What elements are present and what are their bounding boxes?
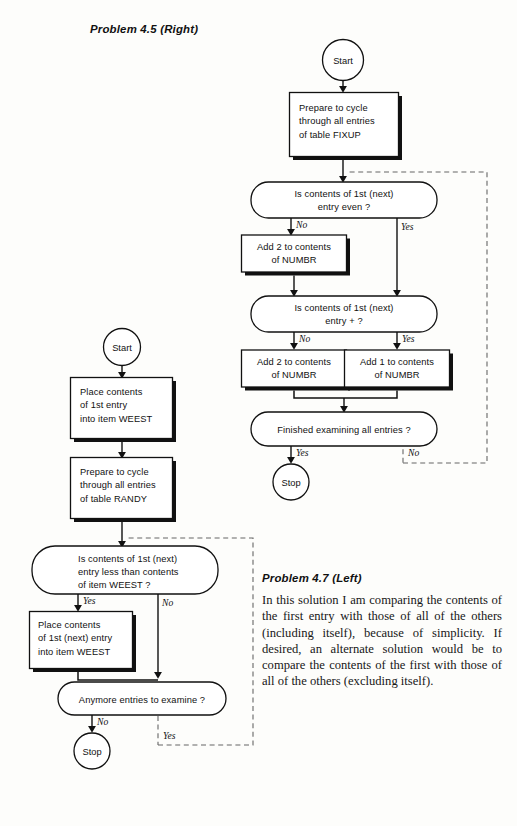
left-place-next-line-1: Place contents [38,620,101,630]
right-decision-done-line-1: Finished examining all entries ? [277,425,410,435]
right-prepare-line-1: Prepare to cycle [299,103,368,113]
left-place-next-line-2: of 1st (next) entry [38,633,112,643]
left-prepare-line-2: through all entries [80,480,156,490]
left-place-first-line-2: of 1st entry [80,400,127,410]
right-decision-done: Finished examining all entries ? [251,412,437,446]
left-place-first-line-3: into item WEEST [80,414,152,424]
right-plus-no-label: No [298,333,310,344]
right-prepare-line-2: through all entries [299,116,375,126]
right-decision-plus: Is contents of 1st (next) entry + ? [251,296,437,332]
right-add2-box-b: Add 2 to contents of NUMBR [242,350,351,391]
right-plus-yes-label: Yes [402,333,415,344]
left-decision-less-line-1: Is contents of 1st (next) [78,554,177,564]
right-stop-label: Stop [281,478,300,488]
left-more-no-label: No [96,716,108,727]
left-prepare-box: Prepare to cycle through all entries of … [71,458,177,523]
left-decision-less: Is contents of 1st (next) entry less tha… [32,546,218,594]
left-place-next-box: Place contents of 1st (next) entry into … [30,612,137,673]
right-even-no-label: No [295,219,307,230]
right-decision-even-line-1: Is contents of 1st (next) [294,189,393,199]
right-even-yes-label: Yes [401,221,414,232]
left-prepare-line-1: Prepare to cycle [80,467,149,477]
left-less-no-label: No [161,597,173,608]
right-done-yes-label: Yes [296,447,309,458]
right-start-node: Start [323,40,364,81]
flowchart-canvas: Start Prepare to cycle through all entri… [0,0,517,826]
left-decision-more-line-1: Anymore entries to examine ? [79,695,205,705]
right-add2a-line-2: of NUMBR [271,255,316,265]
right-flowchart-group: Start Prepare to cycle through all entri… [242,40,488,501]
left-start-node: Start [104,329,141,366]
right-add2b-line-1: Add 2 to contents [257,357,331,367]
page-canvas: Problem 4.5 (Right) Problem 4.7 (Left) I… [0,0,517,826]
right-decision-even-line-2: entry even ? [318,202,370,212]
left-decision-less-line-2: entry less than contents [78,567,179,577]
left-more-yes-label: Yes [163,730,176,741]
left-stop-node: Stop [74,733,110,769]
right-prepare-box: Prepare to cycle through all entries of … [290,93,403,161]
left-less-yes-label: Yes [83,595,96,606]
left-place-next-line-3: into item WEEST [38,647,110,657]
right-prepare-line-3: of table FIXUP [299,130,361,140]
left-decision-less-line-3: of item WEEST ? [78,580,151,590]
left-place-first-line-1: Place contents [80,387,143,397]
left-decision-more: Anymore entries to examine ? [58,682,226,715]
left-place-first-box: Place contents of 1st entry into item WE… [71,378,177,443]
right-stop-node: Stop [273,464,309,500]
right-add1-line-1: Add 1 to contents [360,357,434,367]
right-add2a-line-1: Add 2 to contents [257,242,331,252]
right-add2b-line-2: of NUMBR [271,370,316,380]
right-decision-plus-line-2: entry + ? [325,316,362,326]
right-decision-plus-line-1: Is contents of 1st (next) [294,303,393,313]
right-add1-line-2: of NUMBR [374,370,419,380]
right-add2-box-a: Add 2 to contents of NUMBR [242,235,351,276]
left-start-label: Start [112,343,132,353]
left-prepare-line-3: of table RANDY [80,494,147,504]
left-flowchart-group: Start Place contents of 1st entry into i… [30,329,254,770]
right-start-label: Start [333,56,353,66]
left-stop-label: Stop [82,747,101,757]
right-add1-box: Add 1 to contents of NUMBR [345,350,454,391]
right-decision-even: Is contents of 1st (next) entry even ? [251,182,437,218]
right-done-no-label: No [407,447,419,458]
